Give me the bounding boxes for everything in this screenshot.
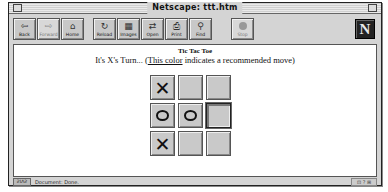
open-icon: ⇄ bbox=[149, 21, 157, 31]
x-mark-icon: ✕ bbox=[155, 77, 171, 99]
board-cell[interactable] bbox=[206, 75, 231, 100]
print-button[interactable]: ⎙ Print bbox=[165, 18, 188, 40]
back-arrow-icon: ⇦ bbox=[21, 21, 29, 31]
turn-prefix: It's X's Turn... ( bbox=[95, 55, 148, 65]
browser-window: Netscape: ttt.htm ⇦ Back ⇨ Forward ⌂ Hom… bbox=[8, 2, 382, 186]
turn-status: It's X's Turn... (This color indicates a… bbox=[14, 55, 376, 65]
board-cell[interactable] bbox=[206, 131, 231, 156]
security-icon[interactable]: ƧƖɅƧ bbox=[13, 178, 31, 186]
forward-button[interactable]: ⇨ Forward bbox=[37, 18, 60, 40]
board-cell[interactable] bbox=[150, 103, 175, 128]
game-board: ✕✕ bbox=[150, 75, 231, 156]
find-button[interactable]: ⚲ Find bbox=[189, 18, 212, 40]
status-bar: ƧƖɅƧ Document: Done. ⊡ ? ⊞ bbox=[13, 178, 377, 186]
stop-button[interactable]: Stop bbox=[231, 18, 254, 40]
page-content: Tic Tac Toe It's X's Turn... (This color… bbox=[13, 44, 377, 177]
back-label: Back bbox=[19, 32, 30, 37]
back-button[interactable]: ⇦ Back bbox=[13, 18, 36, 40]
board-cell[interactable] bbox=[178, 103, 203, 128]
reload-label: Reload bbox=[97, 32, 112, 37]
home-button[interactable]: ⌂ Home bbox=[61, 18, 84, 40]
board-cell[interactable] bbox=[178, 75, 203, 100]
find-icon: ⚲ bbox=[197, 21, 204, 31]
board-cell-recommended[interactable] bbox=[206, 103, 231, 128]
board-cell[interactable] bbox=[178, 131, 203, 156]
status-indicators: ⊡ ? ⊞ bbox=[351, 178, 377, 186]
turn-suffix: indicates a recommended move) bbox=[183, 55, 295, 65]
close-box[interactable] bbox=[13, 4, 22, 12]
stop-icon bbox=[239, 22, 247, 30]
window-title: Netscape: ttt.htm bbox=[147, 2, 242, 14]
reload-icon: ↻ bbox=[101, 21, 109, 31]
print-icon: ⎙ bbox=[173, 21, 180, 31]
status-text: Document: Done. bbox=[35, 179, 79, 185]
forward-label: Forward bbox=[39, 32, 57, 37]
print-label: Print bbox=[171, 32, 181, 37]
reload-button[interactable]: ↻ Reload bbox=[93, 18, 116, 40]
home-label: Home bbox=[66, 32, 79, 37]
toolbar: ⇦ Back ⇨ Forward ⌂ Home ↻ Reload ▦ Image… bbox=[13, 18, 377, 42]
images-label: Images bbox=[120, 32, 136, 37]
o-mark-icon bbox=[184, 110, 197, 121]
board-cell[interactable]: ✕ bbox=[150, 75, 175, 100]
images-icon: ▦ bbox=[124, 21, 133, 31]
x-mark-icon: ✕ bbox=[155, 133, 171, 155]
action-group: ↻ Reload ▦ Images ⇄ Open ⎙ Print ⚲ Find bbox=[93, 18, 213, 40]
stop-label: Stop bbox=[237, 32, 247, 37]
page-heading: Tic Tac Toe bbox=[14, 47, 376, 55]
open-label: Open bbox=[146, 32, 158, 37]
forward-arrow-icon: ⇨ bbox=[45, 21, 53, 31]
zoom-box[interactable] bbox=[368, 4, 377, 12]
images-button[interactable]: ▦ Images bbox=[117, 18, 140, 40]
title-bar[interactable]: Netscape: ttt.htm bbox=[9, 3, 381, 14]
o-mark-icon bbox=[156, 110, 169, 121]
stop-group: Stop bbox=[231, 18, 255, 40]
color-legend-link[interactable]: This color bbox=[148, 55, 183, 65]
home-icon: ⌂ bbox=[70, 21, 76, 31]
nav-group: ⇦ Back ⇨ Forward ⌂ Home bbox=[13, 18, 85, 40]
board-cell[interactable]: ✕ bbox=[150, 131, 175, 156]
open-button[interactable]: ⇄ Open bbox=[141, 18, 164, 40]
netscape-logo[interactable]: N bbox=[355, 19, 375, 39]
find-label: Find bbox=[196, 32, 205, 37]
